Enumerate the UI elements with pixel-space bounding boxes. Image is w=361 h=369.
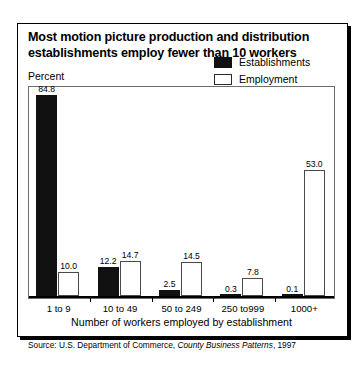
bar-employment-3 <box>242 278 263 296</box>
x-axis-tick <box>90 297 91 302</box>
x-axis-tick <box>152 297 153 302</box>
bar-value-label: 14.5 <box>176 251 207 261</box>
plot-area: 84.810.012.214.72.514.50.37.80.153.0 <box>28 86 335 299</box>
bar-value-label: 14.7 <box>115 250 146 260</box>
bar-employment-4 <box>304 170 325 296</box>
x-axis-category-0: 1 to 9 <box>28 303 89 314</box>
bar-establishments-4 <box>282 294 303 296</box>
bar-establishments-1 <box>98 267 119 296</box>
bar-value-label: 7.8 <box>237 267 268 277</box>
x-axis-category-3: 250 to999 <box>212 303 273 314</box>
bar-value-label: 53.0 <box>299 159 330 169</box>
x-axis-category-1: 10 to 49 <box>89 303 150 314</box>
source-suffix: , 1997 <box>273 340 296 350</box>
y-axis-label: Percent <box>28 70 64 82</box>
bar-value-label: 84.8 <box>31 84 62 94</box>
source-publication: County Business Patterns <box>177 340 272 350</box>
bar-employment-0 <box>58 272 79 296</box>
x-axis-tick <box>275 297 276 302</box>
source-note: Source: U.S. Department of Commerce, Cou… <box>28 340 296 350</box>
legend-swatch-establishments <box>214 57 232 68</box>
bar-value-label: 10.0 <box>53 261 84 271</box>
x-axis-category-2: 50 to 249 <box>151 303 212 314</box>
bar-establishments-3 <box>220 294 241 296</box>
x-axis-title: Number of workers employed by establishm… <box>28 316 335 328</box>
x-axis-line <box>29 296 334 298</box>
bar-employment-2 <box>181 262 202 296</box>
legend-swatch-employment <box>214 74 232 85</box>
legend-label-establishments: Establishments <box>239 56 310 68</box>
x-axis-tick <box>213 297 214 302</box>
bar-employment-1 <box>120 261 141 296</box>
chart-figure: Most motion picture production and distr… <box>17 23 348 337</box>
bar-establishments-2 <box>159 290 180 296</box>
legend-item: Establishments <box>214 56 310 68</box>
x-axis-category-4: 1000+ <box>274 303 335 314</box>
legend-label-employment: Employment <box>239 73 297 85</box>
chart-legend: Establishments Employment <box>214 56 310 90</box>
legend-item: Employment <box>214 73 310 85</box>
source-prefix: Source: U.S. Department of Commerce, <box>28 340 175 350</box>
